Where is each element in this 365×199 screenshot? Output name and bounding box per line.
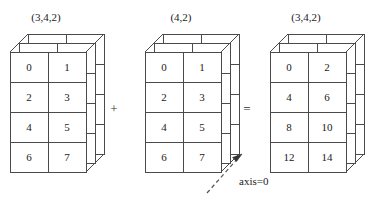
- cell-right-operand-r1-c0: 2: [161, 91, 167, 103]
- depth-edge-bottomright-right-operand: [221, 163, 230, 172]
- depth-edge-bottomright-result: [346, 163, 355, 172]
- depth-edge2-topleft-result: [279, 34, 288, 43]
- cell-result-r2-c1: 10: [322, 121, 334, 133]
- cell-result-r1-c0: 4: [286, 91, 292, 103]
- cell-left-operand-r2-c0: 4: [26, 121, 32, 133]
- cell-result-r3-c0: 12: [284, 151, 295, 163]
- depth-edge2-topright-result: [355, 34, 364, 43]
- cell-left-operand-r0-c1: 1: [64, 61, 70, 73]
- cell-right-operand-r0-c0: 0: [161, 61, 167, 73]
- depth-edge2-topleft-right-operand: [154, 34, 163, 43]
- cell-left-operand-r3-c0: 6: [26, 151, 32, 163]
- cell-right-operand-r3-c1: 7: [199, 151, 205, 163]
- diagram-canvas: (3,4,2) (4,2) (3,4,2) + = axis=0 0123456…: [0, 0, 365, 199]
- depth-edge2-topright-left-operand: [95, 34, 104, 43]
- depth-edge2-bottomright-left-operand: [95, 154, 104, 163]
- cell-right-operand-r1-c1: 3: [199, 91, 205, 103]
- depth-edge-bottomright-left-operand: [86, 163, 95, 172]
- cell-result-r0-c1: 2: [324, 61, 330, 73]
- cell-result-r0-c0: 0: [286, 61, 292, 73]
- block-geometry-group: [10, 34, 364, 172]
- depth-edge-topleft-result: [270, 43, 279, 52]
- depth-edge-topleft-right-operand: [145, 43, 154, 52]
- cell-left-operand-r1-c1: 3: [64, 91, 70, 103]
- cell-left-operand-r0-c0: 0: [26, 61, 32, 73]
- depth-edge2-bottomright-result: [355, 154, 364, 163]
- cell-right-operand-r0-c1: 1: [199, 61, 205, 73]
- cell-right-operand-r2-c1: 5: [199, 121, 205, 133]
- depth-edge2-topright-right-operand: [230, 34, 239, 43]
- cell-left-operand-r1-c0: 2: [26, 91, 32, 103]
- cell-result-r2-c0: 8: [286, 121, 292, 133]
- depth-edge2-topleft-left-operand: [19, 34, 28, 43]
- cell-result-r3-c1: 14: [322, 151, 334, 163]
- cell-left-operand-r2-c1: 5: [64, 121, 70, 133]
- depth-edge-topleft-left-operand: [10, 43, 19, 52]
- diagram-svg: 012345670123456702468101214: [0, 0, 365, 199]
- cell-right-operand-r2-c0: 4: [161, 121, 167, 133]
- cell-left-operand-r3-c1: 7: [64, 151, 70, 163]
- cell-result-r1-c1: 6: [324, 91, 330, 103]
- cell-right-operand-r3-c0: 6: [161, 151, 167, 163]
